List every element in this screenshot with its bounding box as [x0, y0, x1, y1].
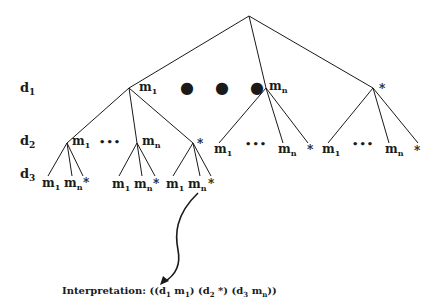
node-d2-mn-mn: mn [278, 143, 297, 159]
leaf-d3-a-mn: mn [64, 177, 83, 193]
node-d1-star: * [379, 83, 385, 95]
node-d2-m1: m1 [72, 135, 90, 151]
ellipsis-d1: ● ● ● [180, 78, 272, 97]
interpretation-text: Interpretation: ((d1 m1) (d2 *) (d3 mn)) [62, 285, 277, 299]
node-d2-mn: mn [142, 135, 161, 151]
node-d2-mn-m1: m1 [214, 143, 232, 159]
ellipsis-d2-a: ••• [99, 136, 121, 147]
leaf-d3-c-star: * [208, 178, 214, 190]
level-label-d2: d2 [20, 134, 35, 152]
leaf-d3-a-m1: m1 [42, 177, 60, 193]
leaf-d3-b-mn: mn [134, 178, 153, 194]
node-d2-star-mn: mn [385, 143, 404, 159]
leaf-d3-b-star: * [153, 178, 159, 190]
node-d1-mn: mn [269, 80, 288, 96]
leaf-d3-c-mn: mn [188, 178, 207, 194]
node-d1-m1: m1 [139, 81, 157, 97]
node-d2-star-star: * [414, 145, 420, 157]
leaf-d3-c-m1: m1 [166, 178, 184, 194]
leaf-d3-b-m1: m1 [112, 178, 130, 194]
node-d2-star-m1: m1 [322, 143, 340, 159]
node-d2-star: * [197, 138, 203, 150]
tree-diagram: d1 d2 d3 m1 ● ● ● mn * m1 ••• mn * m1 ••… [0, 0, 437, 306]
level-label-d3: d3 [20, 167, 35, 185]
level-label-d1: d1 [20, 81, 35, 99]
leaf-d3-a-star: * [83, 177, 89, 189]
ellipsis-d2-b: ••• [245, 138, 267, 149]
node-d2-mn-star: * [307, 144, 313, 156]
ellipsis-d2-c: ••• [352, 138, 374, 149]
